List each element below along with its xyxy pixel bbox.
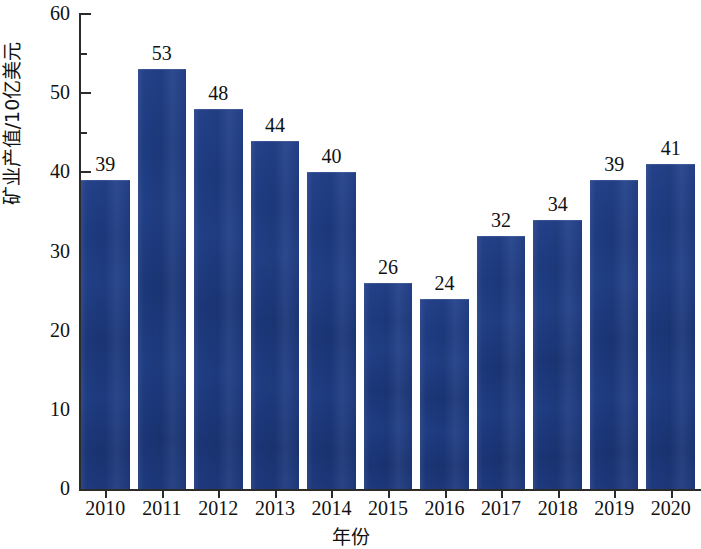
bar-value-label: 34 <box>533 194 582 214</box>
x-axis-title: 年份 <box>0 522 701 549</box>
bar <box>81 180 130 489</box>
bar-value-label: 40 <box>307 146 356 166</box>
x-axis-tick-label: 2014 <box>307 497 356 519</box>
y-axis-tick-label-text: 0 <box>24 478 70 498</box>
y-axis-tick-label: 60 <box>0 3 70 23</box>
bar <box>646 164 695 489</box>
bar-value-label: 39 <box>590 154 639 174</box>
y-axis-tick-label-text: 20 <box>24 320 70 340</box>
bar-value-label: 24 <box>420 273 469 293</box>
bar-value-label: 32 <box>477 210 526 230</box>
x-axis-tick-label: 2017 <box>477 497 526 519</box>
y-axis-minor-tick <box>81 53 87 55</box>
x-axis-tick-label: 2019 <box>590 497 639 519</box>
x-axis-tick-label: 2010 <box>81 497 130 519</box>
x-axis-line <box>79 489 701 491</box>
y-axis-tick-label: 30 <box>0 241 70 261</box>
y-axis-tick-label: 0 <box>0 478 70 498</box>
y-axis-major-tick <box>81 92 91 94</box>
bar <box>307 172 356 489</box>
bar <box>590 180 639 489</box>
bar-value-label: 44 <box>251 115 300 135</box>
bar-value-label: 39 <box>81 154 130 174</box>
y-axis-tick-label-text: 40 <box>24 161 70 181</box>
y-axis-tick-label: 10 <box>0 399 70 419</box>
x-axis-tick-label: 2016 <box>420 497 469 519</box>
chart-figure: 矿业产值/10亿美元 0102030405060 395348444026243… <box>0 0 701 549</box>
bar-value-label: 26 <box>364 257 413 277</box>
bar-value-label: 53 <box>138 43 187 63</box>
x-axis-tick-label: 2013 <box>251 497 300 519</box>
x-axis-tick-label: 2015 <box>364 497 413 519</box>
x-axis-tick-label: 2020 <box>646 497 695 519</box>
y-axis-tick-label: 20 <box>0 320 70 340</box>
y-axis-major-tick <box>81 13 91 15</box>
x-axis-tick-label: 2018 <box>533 497 582 519</box>
y-axis-tick-label-text: 10 <box>24 399 70 419</box>
bar <box>533 220 582 489</box>
bar <box>138 69 187 489</box>
bar <box>420 299 469 489</box>
bar <box>364 283 413 489</box>
bar-value-label: 48 <box>194 83 243 103</box>
bar <box>477 236 526 489</box>
y-axis-tick-label-text: 30 <box>24 241 70 261</box>
y-axis-tick-label-text: 50 <box>24 82 70 102</box>
bar <box>194 109 243 489</box>
bar <box>251 141 300 489</box>
y-axis-tick-label: 40 <box>0 161 70 181</box>
bar-value-label: 41 <box>646 138 695 158</box>
y-axis-minor-tick <box>81 132 87 134</box>
x-axis-tick-label: 2012 <box>194 497 243 519</box>
y-axis-tick-label: 50 <box>0 82 70 102</box>
x-axis-tick-label: 2011 <box>138 497 187 519</box>
y-axis-tick-label-text: 60 <box>24 3 70 23</box>
